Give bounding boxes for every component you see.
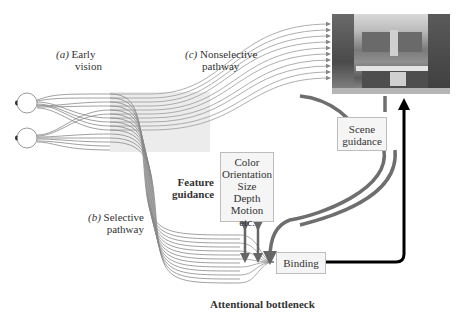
- feature-dimensions-box: Color Orientation Size Depth Motion etc.: [220, 152, 274, 222]
- early-vision-label: (a) Early vision: [56, 48, 102, 72]
- binding-box: Binding: [276, 252, 326, 274]
- feature-guidance-arrows: [245, 226, 258, 258]
- feature-size: Size: [221, 180, 273, 192]
- attentional-bottleneck-label: Attentional bottleneck: [210, 298, 315, 310]
- nonselective-pathway-lines: [110, 24, 330, 130]
- eye-icon-top: [16, 93, 37, 113]
- scene-guidance-box: Scene guidance: [337, 117, 387, 151]
- feature-orientation: Orientation: [221, 168, 273, 180]
- feature-motion: Motion: [221, 204, 273, 216]
- eye-icon-bottom: [16, 128, 37, 148]
- nonselective-pathway-label: (c) Nonselective pathway: [185, 48, 257, 72]
- feature-color: Color: [221, 156, 273, 168]
- selective-pathway-label: (b) Selective pathway: [88, 211, 144, 235]
- feature-depth: Depth: [221, 192, 273, 204]
- early-vision-fibers: [37, 94, 110, 150]
- feature-guidance-label: Feature guidance: [172, 176, 214, 200]
- feature-etc: etc.: [221, 216, 273, 228]
- kitchen-scene-image: [332, 14, 450, 94]
